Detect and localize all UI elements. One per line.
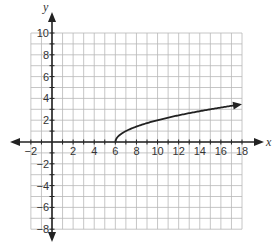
x-tick-label: 16	[215, 145, 227, 157]
x-tick-label: 18	[236, 145, 248, 157]
x-tick-label: 10	[151, 145, 163, 157]
y-tick-label: −4	[36, 180, 49, 192]
y-tick-label: 2	[43, 114, 49, 126]
x-axis-right-arrow-icon	[254, 138, 264, 146]
x-tick-label: 12	[173, 145, 185, 157]
y-axis-down-arrow-icon	[48, 232, 56, 242]
y-tick-label: −2	[36, 158, 49, 170]
function-curve	[115, 105, 237, 142]
x-axis-left-arrow-icon	[10, 138, 20, 146]
x-tick-label: 8	[133, 145, 139, 157]
y-axis-label: y	[42, 0, 49, 14]
curve-arrow-icon	[233, 102, 242, 110]
x-axis-label: x	[265, 135, 272, 149]
y-tick-label: −8	[36, 223, 49, 235]
y-tick-label: −6	[36, 201, 49, 213]
x-tick-label: 14	[194, 145, 206, 157]
y-axis-up-arrow-icon	[48, 12, 56, 22]
coordinate-plane: −224681012141618108642−2−4−6−8xy	[0, 0, 272, 247]
y-tick-label: 6	[43, 71, 49, 83]
y-tick-label: 10	[37, 27, 49, 39]
x-tick-label: 6	[112, 145, 118, 157]
y-tick-label: 4	[43, 92, 49, 104]
x-tick-label: 2	[70, 145, 76, 157]
x-tick-label: −2	[25, 145, 38, 157]
x-tick-label: 4	[91, 145, 97, 157]
y-tick-label: 8	[43, 49, 49, 61]
